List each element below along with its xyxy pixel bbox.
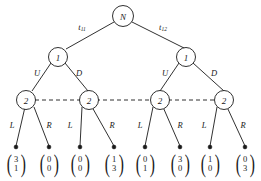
payoff-vector-5: ( 0 1 ) <box>134 154 156 174</box>
paren-open: ( <box>136 154 141 174</box>
paren-close: ) <box>53 154 58 174</box>
edge-label-r-4: R <box>239 120 246 130</box>
paren-open: ( <box>171 154 176 174</box>
payoff-values: 0 0 <box>46 155 51 173</box>
payoff-bottom: 1 <box>14 164 18 173</box>
node-r1-label: 1 <box>184 53 189 63</box>
payoff-vector-3: ( 0 0 ) <box>69 154 91 174</box>
leaf-dot-1 <box>14 145 18 149</box>
edge-leaf-1 <box>16 107 25 146</box>
node-l2-2-label: 2 <box>87 96 92 106</box>
payoff-vector-8: ( 0 3 ) <box>234 154 256 174</box>
node-root-label: N <box>119 12 127 22</box>
leaf-dot-6 <box>178 145 182 149</box>
edge-label-d-left: D <box>75 68 83 78</box>
edge-label-r-1: R <box>45 120 52 130</box>
payoff-values: 1 3 <box>111 155 116 173</box>
edge-root-left <box>66 22 114 49</box>
payoff-bottom: 1 <box>143 164 147 173</box>
paren-open: ( <box>7 154 12 174</box>
paren-open: ( <box>40 154 45 174</box>
leaf-dot-8 <box>243 145 247 149</box>
leaf-dot-3 <box>78 145 82 149</box>
node-l2-4-label: 2 <box>222 96 227 106</box>
node-l2-3-label: 2 <box>158 96 163 106</box>
payoff-bottom: 3 <box>112 164 116 173</box>
paren-open: ( <box>105 154 110 174</box>
edge-label-t11: t11 <box>78 22 86 32</box>
node-l1-label: 1 <box>56 53 61 63</box>
leaf-dot-2 <box>47 145 51 149</box>
paren-close: ) <box>249 154 254 174</box>
leaf-dot-7 <box>208 145 212 149</box>
node-l2-1-label: 2 <box>24 96 29 106</box>
payoff-bottom: 0 <box>178 164 182 173</box>
edge-label-u-left: U <box>34 68 41 78</box>
paren-open: ( <box>201 154 206 174</box>
edge-leaf-7 <box>210 107 217 146</box>
payoff-vector-7: ( 1 0 ) <box>199 154 221 174</box>
payoff-vector-2: ( 0 0 ) <box>38 154 60 174</box>
payoff-bottom: 0 <box>78 164 82 173</box>
paren-close: ) <box>214 154 219 174</box>
edge-label-r-2: R <box>108 120 115 130</box>
edge-label-u-right: U <box>162 68 169 78</box>
payoff-values: 1 0 <box>207 155 212 173</box>
edge-leaf-5 <box>145 107 153 146</box>
edge-r1-right <box>193 63 224 91</box>
edge-label-l-2: L <box>67 120 73 130</box>
edge-label-d-right: D <box>210 68 218 78</box>
leaf-dot-4 <box>112 145 116 149</box>
paren-close: ) <box>20 154 25 174</box>
leaf-dot-5 <box>143 145 147 149</box>
payoff-vector-6: ( 3 0 ) <box>169 154 191 174</box>
paren-close: ) <box>84 154 89 174</box>
payoff-values: 0 3 <box>242 155 247 173</box>
payoff-values: 0 1 <box>142 155 147 173</box>
paren-open: ( <box>71 154 76 174</box>
payoff-bottom: 0 <box>47 164 51 173</box>
paren-close: ) <box>149 154 154 174</box>
game-tree-diagram: N 1 1 2 2 2 2 t11 t12 U D U D L R <box>0 0 261 181</box>
edge-label-l-1: L <box>9 120 15 130</box>
paren-close: ) <box>184 154 189 174</box>
edge-label-r-3: R <box>176 120 183 130</box>
payoff-vector-4: ( 1 3 ) <box>103 154 125 174</box>
payoff-values: 0 0 <box>77 155 82 173</box>
edge-label-l-4: L <box>201 120 207 130</box>
paren-open: ( <box>236 154 241 174</box>
payoff-vector-1: ( 3 1 ) <box>5 154 27 174</box>
paren-close: ) <box>118 154 123 174</box>
payoff-bottom: 0 <box>208 164 212 173</box>
edge-label-t12: t12 <box>159 22 167 32</box>
edge-leaf-3 <box>80 107 82 146</box>
payoff-values: 3 1 <box>13 155 18 173</box>
edge-label-l-3: L <box>137 120 143 130</box>
payoff-values: 3 0 <box>177 155 182 173</box>
payoff-bottom: 3 <box>243 164 247 173</box>
